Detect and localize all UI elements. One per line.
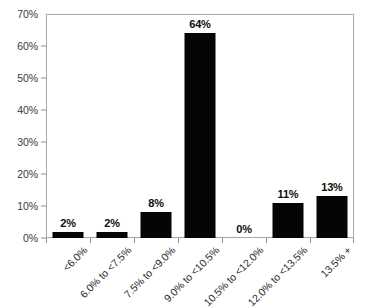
bar-group[interactable]: 2% <box>46 14 90 238</box>
bar-group[interactable]: 8% <box>134 14 178 238</box>
bar[interactable] <box>141 212 172 238</box>
bar-group[interactable]: 2% <box>90 14 134 238</box>
y-axis-tick-label: 10% <box>17 200 38 212</box>
bar-value-label: 0% <box>236 223 252 235</box>
x-axis-labels: <6.0%6.0% to <7.5%7.5% to <9.0%9.0% to <… <box>0 238 371 308</box>
x-axis-tick-label: 13.5% + <box>318 244 353 279</box>
bar-value-label: 11% <box>278 188 299 200</box>
bar-value-label: 64% <box>189 18 210 30</box>
y-axis-tick-label: 40% <box>17 104 38 116</box>
y-axis-tick-label: 70% <box>17 8 38 20</box>
bar-group[interactable]: 0% <box>222 14 266 238</box>
bar[interactable] <box>185 33 216 238</box>
bar-group[interactable]: 11% <box>266 14 310 238</box>
bar-chart: 0%10%20%30%40%50%60%70% 2%2%8%64%0%11%13… <box>0 0 371 308</box>
y-axis-tick-label: 30% <box>17 136 38 148</box>
y-axis-tick-label: 50% <box>17 72 38 84</box>
bar-value-label: 13% <box>321 181 342 193</box>
bar-value-label: 8% <box>148 197 164 209</box>
y-axis-tick-label: 60% <box>17 40 38 52</box>
bars-container: 2%2%8%64%0%11%13% <box>46 14 354 238</box>
bar[interactable] <box>317 196 348 238</box>
bar[interactable] <box>273 203 304 238</box>
x-axis-tick-label: <6.0% <box>60 244 89 273</box>
bar-group[interactable]: 13% <box>310 14 354 238</box>
y-axis-tick-label: 20% <box>17 168 38 180</box>
bar-group[interactable]: 64% <box>178 14 222 238</box>
bar-value-label: 2% <box>104 217 120 229</box>
bar-value-label: 2% <box>60 217 76 229</box>
